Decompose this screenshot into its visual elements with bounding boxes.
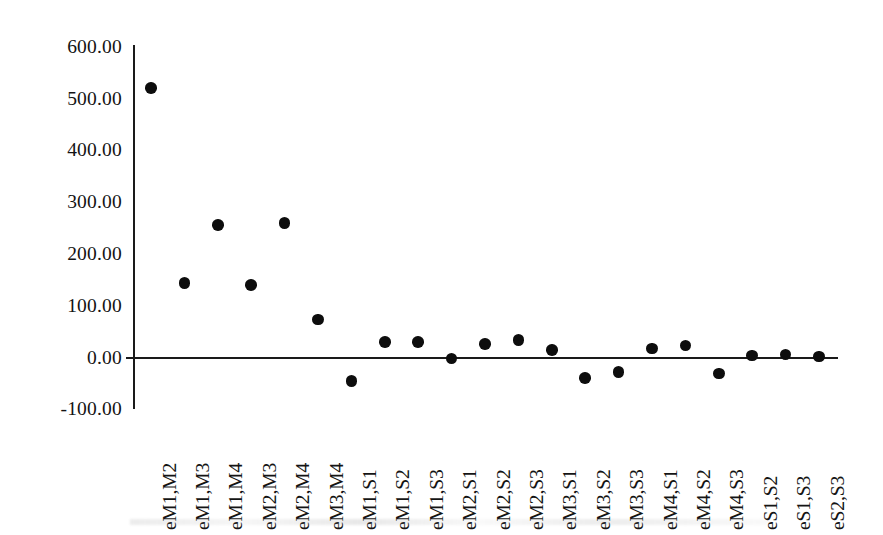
data-point	[279, 217, 291, 229]
x-axis-tick-label: eM3,S3	[627, 410, 646, 530]
data-point	[412, 336, 424, 348]
data-point	[646, 343, 658, 355]
x-axis-tick-label: eM3,S2	[594, 410, 613, 530]
data-point	[312, 314, 324, 326]
x-axis-tick-label: eS1,S3	[794, 410, 813, 530]
data-point	[680, 340, 692, 352]
y-axis-tick-label: 100.00	[22, 296, 122, 316]
x-axis-tick-label: eM1,M4	[226, 410, 245, 530]
x-axis-tick-label: eM1,S3	[427, 410, 446, 530]
data-point	[579, 372, 591, 384]
data-point	[346, 375, 358, 387]
x-axis-tick-label: eM1,S1	[360, 410, 379, 530]
y-axis-tick-label: 300.00	[22, 192, 122, 212]
y-axis-tick-label: -100.00	[22, 400, 122, 420]
data-point	[145, 82, 157, 94]
data-point	[212, 219, 224, 231]
x-axis-tick-label: eM4,S1	[661, 410, 680, 530]
scatter-chart: 600.00500.00400.00300.00200.00100.000.00…	[0, 0, 883, 535]
data-point	[245, 279, 257, 291]
x-axis-tick-label: eS2,S3	[828, 410, 847, 530]
x-axis-tick-label: eM1,M3	[193, 410, 212, 530]
data-point	[780, 349, 792, 361]
x-axis-tick-label: eM4,S2	[694, 410, 713, 530]
x-axis-tick-label: eM2,M3	[260, 410, 279, 530]
data-point	[713, 368, 725, 380]
x-axis-tick-label: eM1,M2	[160, 410, 179, 530]
x-axis-tick-label: eM2,S3	[527, 410, 546, 530]
y-axis-tick-label: 600.00	[22, 37, 122, 57]
data-point	[379, 336, 391, 348]
scan-artifact	[130, 519, 770, 525]
x-axis-tick-label: eM2,M4	[293, 410, 312, 530]
y-axis-tick-labels: 600.00500.00400.00300.00200.00100.000.00…	[22, 0, 122, 535]
x-axis-tick-label: eM2,S1	[460, 410, 479, 530]
data-point	[179, 277, 191, 289]
data-point	[446, 353, 458, 365]
y-axis-tick-label: 0.00	[22, 348, 122, 368]
data-point	[546, 344, 558, 356]
data-point	[479, 338, 491, 350]
data-point	[613, 366, 625, 378]
data-point	[746, 350, 758, 362]
y-axis-tick-label: 200.00	[22, 244, 122, 264]
x-axis-tick-label: eM3,S1	[560, 410, 579, 530]
x-axis-tick-label: eS1,S2	[761, 410, 780, 530]
x-axis-tick-label: eM1,S2	[393, 410, 412, 530]
x-axis-tick-label: eM4,S3	[727, 410, 746, 530]
x-axis-tick-label: eM3,M4	[327, 410, 346, 530]
x-axis-tick-label: eM2,S2	[494, 410, 513, 530]
data-point	[813, 351, 825, 363]
y-axis-tick-label: 400.00	[22, 141, 122, 161]
data-point	[513, 334, 525, 346]
y-axis-tick-label: 500.00	[22, 89, 122, 109]
x-axis-tick-labels: eM1,M2eM1,M3eM1,M4eM2,M3eM2,M4eM3,M4eM1,…	[133, 412, 838, 532]
